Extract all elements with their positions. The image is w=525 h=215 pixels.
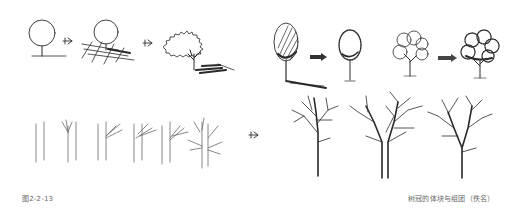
figure-label: 图2-2-13	[22, 193, 53, 203]
sketch-clustered-textured-canopy	[460, 28, 502, 80]
arrow-icon	[62, 36, 74, 46]
arrow-icon	[438, 54, 458, 62]
arrow-icon	[142, 38, 154, 48]
sketch-irregular-canopy-with-shadow	[162, 18, 242, 78]
sketch-trunk-steps	[28, 118, 228, 178]
arrow-icon	[248, 130, 260, 140]
arrow-icon	[310, 53, 328, 61]
sketch-textured-oval-canopy	[336, 28, 366, 84]
sketch-circle-canopy-with-ground-shadow	[78, 18, 140, 68]
figure-caption: 树冠的体块与组团（佚名）	[408, 193, 494, 203]
sketch-bare-trees	[282, 92, 502, 182]
sketch-clustered-outline-canopy	[392, 30, 432, 80]
